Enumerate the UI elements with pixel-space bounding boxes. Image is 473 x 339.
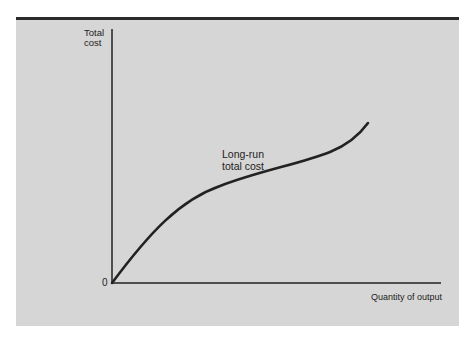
curve-annotation: Long-run total cost: [222, 148, 264, 172]
y-axis-label: Total cost: [84, 28, 104, 48]
curve-annotation-line2: total cost: [222, 160, 264, 172]
curve-annotation-line1: Long-run: [222, 148, 264, 160]
long-run-total-cost-curve: [112, 123, 368, 283]
y-axis-label-line2: cost: [84, 38, 104, 48]
x-axis-label: Quantity of output: [371, 292, 442, 302]
origin-label: 0: [102, 278, 108, 288]
